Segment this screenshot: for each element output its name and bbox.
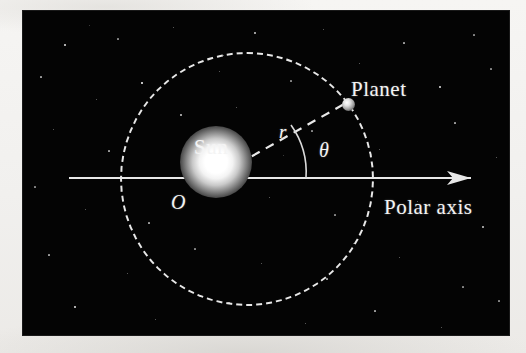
radius-label: r [279, 121, 286, 143]
angle-arc [23, 11, 509, 335]
figure-root: Sun Planet Polar axis O r θ [0, 0, 526, 353]
planet-label: Planet [351, 77, 407, 102]
theta-label: θ [319, 139, 329, 162]
origin-label: O [171, 191, 185, 214]
sun-label: Sun [194, 135, 228, 160]
polar-axis-label: Polar axis [384, 195, 472, 220]
night-sky-canvas: Sun Planet Polar axis O r θ [23, 11, 509, 335]
